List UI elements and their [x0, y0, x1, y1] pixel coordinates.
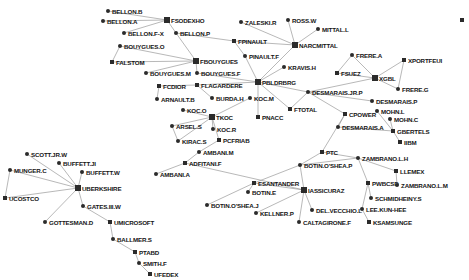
graph-node[interactable] — [137, 261, 141, 265]
graph-node-label: ROSS.W — [292, 18, 316, 24]
graph-node[interactable] — [252, 181, 256, 185]
graph-node-label: BOUYGUES.F — [201, 71, 240, 77]
graph-node[interactable] — [239, 20, 243, 24]
graph-node[interactable] — [197, 150, 201, 154]
graph-node[interactable] — [101, 19, 105, 23]
graph-node[interactable] — [366, 181, 370, 185]
graph-node[interactable] — [288, 107, 292, 111]
graph-node[interactable] — [286, 18, 290, 22]
graph-node-label: MUNGER.C — [14, 168, 47, 174]
graph-node[interactable] — [195, 71, 199, 75]
graph-node[interactable] — [310, 208, 314, 212]
graph-node[interactable] — [106, 9, 110, 13]
graph-node[interactable] — [183, 161, 187, 165]
graph-node[interactable] — [255, 79, 261, 85]
graph-node[interactable] — [402, 58, 406, 62]
graph-node-label: BOUYGUES.M — [150, 71, 191, 77]
graph-node[interactable] — [369, 196, 373, 200]
graph-node-label: PCFRIAB — [223, 138, 249, 144]
graph-node[interactable] — [356, 156, 360, 160]
graph-node-label: UFEDEX — [154, 272, 178, 278]
graph-node[interactable] — [282, 65, 286, 69]
graph-node[interactable] — [360, 207, 364, 211]
graph-node[interactable] — [391, 129, 395, 133]
graph-node[interactable] — [316, 27, 320, 31]
graph-node-label: KOC.R — [217, 127, 236, 133]
graph-node[interactable] — [80, 170, 84, 174]
graph-node[interactable] — [174, 31, 178, 35]
graph-node[interactable] — [195, 83, 199, 87]
graph-node[interactable] — [388, 117, 392, 121]
graph-node[interactable] — [133, 250, 137, 254]
graph-node[interactable] — [254, 211, 258, 215]
graph-node-label: BOUYGUES.O — [124, 44, 164, 50]
graph-node[interactable] — [256, 115, 260, 119]
graph-node[interactable] — [193, 58, 199, 64]
graph-node[interactable] — [43, 220, 47, 224]
graph-node-label: FRERE.A — [356, 53, 382, 59]
graph-node[interactable] — [243, 54, 247, 58]
graph-node-label: SCOTT.JR.W — [31, 152, 67, 158]
graph-node-label: KIRAC.S — [182, 139, 206, 145]
graph-node-label: PTABD — [139, 250, 159, 256]
graph-node-label: PBLDRBRG — [262, 80, 296, 86]
graph-node[interactable] — [118, 44, 122, 48]
graph-node[interactable] — [210, 96, 214, 100]
graph-node[interactable] — [111, 237, 115, 241]
graph-node[interactable] — [292, 42, 298, 48]
graph-node[interactable] — [306, 90, 310, 94]
graph-node[interactable] — [460, 18, 464, 22]
graph-node[interactable] — [181, 108, 185, 112]
graph-node[interactable] — [301, 187, 307, 193]
graph-node[interactable] — [320, 150, 324, 154]
graph-node[interactable] — [398, 140, 402, 144]
graph-node[interactable] — [157, 84, 161, 88]
graph-node[interactable] — [155, 97, 159, 101]
graph-node-label: FSODEXHO — [171, 18, 205, 24]
graph-node-label: FALSTOM — [116, 60, 144, 66]
graph-node[interactable] — [394, 169, 398, 173]
graph-node[interactable] — [148, 272, 152, 276]
graph-node[interactable] — [370, 99, 374, 103]
graph-node[interactable] — [164, 17, 170, 23]
graph-node[interactable] — [246, 190, 250, 194]
graph-node-label: BUFFETT.JI — [63, 161, 96, 167]
graph-node[interactable] — [217, 138, 221, 142]
graph-node[interactable] — [372, 75, 378, 81]
graph-node-label: KSAMSUNGE — [373, 220, 412, 226]
graph-node[interactable] — [170, 124, 174, 128]
graph-node[interactable] — [298, 163, 302, 167]
graph-node[interactable] — [248, 96, 252, 100]
graph-node[interactable] — [3, 196, 7, 200]
graph-node[interactable] — [336, 125, 340, 129]
graph-node[interactable] — [110, 60, 114, 64]
graph-node-layer: BELLON.BFSODEXHOBELLON.ABELLON.F-XBELLON… — [0, 0, 469, 280]
graph-node[interactable] — [144, 71, 148, 75]
graph-node[interactable] — [176, 139, 180, 143]
graph-node-label: ESANTANDER — [258, 181, 299, 187]
graph-node[interactable] — [350, 53, 354, 57]
graph-node[interactable] — [8, 168, 12, 172]
graph-node-label: DESMARAIS.A — [342, 125, 384, 131]
graph-node[interactable] — [57, 161, 61, 165]
graph-node[interactable] — [154, 172, 158, 176]
graph-node[interactable] — [232, 39, 236, 43]
graph-node[interactable] — [209, 114, 215, 120]
graph-node[interactable] — [75, 185, 81, 191]
graph-node[interactable] — [367, 220, 371, 224]
graph-node-label: KRAVIS.H — [288, 65, 316, 71]
graph-node-label: MITTAL.L — [322, 27, 349, 33]
graph-node[interactable] — [335, 71, 339, 75]
graph-node[interactable] — [343, 112, 347, 116]
graph-node[interactable] — [205, 203, 209, 207]
network-graph-canvas: BELLON.BFSODEXHOBELLON.ABELLON.F-XBELLON… — [0, 0, 469, 280]
graph-node[interactable] — [108, 220, 112, 224]
graph-node[interactable] — [122, 31, 126, 35]
graph-node[interactable] — [395, 183, 399, 187]
graph-node[interactable] — [25, 152, 29, 156]
graph-node[interactable] — [211, 127, 215, 131]
graph-node[interactable] — [81, 204, 85, 208]
graph-node[interactable] — [297, 220, 301, 224]
graph-node-label: GOTTESMAN.D — [49, 220, 93, 226]
graph-node[interactable] — [396, 87, 400, 91]
